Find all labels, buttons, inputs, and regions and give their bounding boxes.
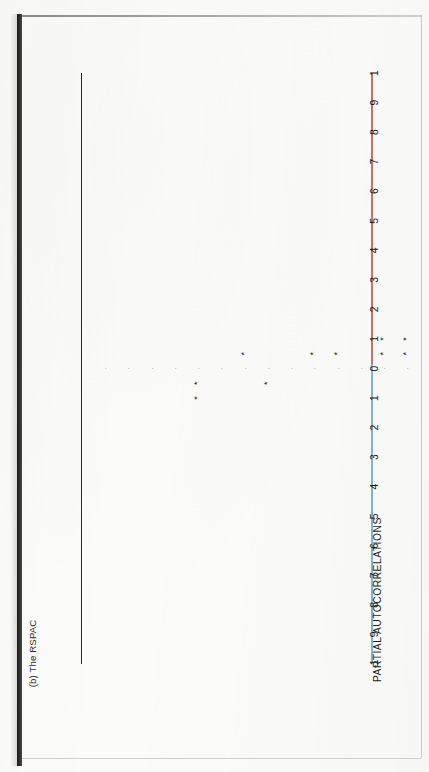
axis-tick-15: 5 <box>369 218 380 224</box>
pacf-marker: * <box>239 352 248 356</box>
figure-rotated-container: PARTIAL AUTOCORRELATIONS -19876543210123… <box>0 0 428 742</box>
pacf-marker: * <box>262 382 271 386</box>
axis-tick-1: 9 <box>369 632 380 638</box>
pacf-figure: PARTIAL AUTOCORRELATIONS -19876543210123… <box>0 0 428 742</box>
page-border-bottom <box>22 758 422 759</box>
axis-tick-14: 4 <box>369 247 380 253</box>
axis-tick-8: 2 <box>369 425 380 431</box>
axis-tick-2: 8 <box>369 602 380 608</box>
pacf-marker: * <box>402 337 411 341</box>
pacf-marker: * <box>402 352 411 356</box>
pacf-marker: * <box>379 337 388 341</box>
zero-tick-mark: . <box>123 368 132 370</box>
pacf-marker: * <box>309 352 318 356</box>
zero-tick-mark: . <box>355 368 364 370</box>
axis-tick-20: 1 <box>369 70 380 76</box>
pacf-marker: * <box>379 352 388 356</box>
axis-tick-17: 7 <box>369 159 380 165</box>
pacf-marker: * <box>332 352 341 356</box>
zero-tick-mark: . <box>286 368 295 370</box>
zero-tick-mark: . <box>402 368 411 370</box>
pacf-marker: * <box>193 396 202 400</box>
zero-tick-mark: . <box>309 368 318 370</box>
axis-tick-3: 7 <box>369 572 380 578</box>
axis-tick-0: -1 <box>369 660 380 669</box>
axis-tick-12: 2 <box>369 307 380 313</box>
zero-tick-mark: . <box>332 368 341 370</box>
zero-tick-mark: . <box>100 368 109 370</box>
axis-tick-16: 6 <box>369 188 380 194</box>
scanned-page: (b) The RSPAC PARTIAL AUTOCORRELATIONS -… <box>0 0 429 772</box>
zero-tick-mark: . <box>379 368 388 370</box>
zero-tick-mark: . <box>239 368 248 370</box>
zero-tick-mark: . <box>216 368 225 370</box>
axis-tick-18: 8 <box>369 129 380 135</box>
axis-tick-19: 9 <box>369 100 380 106</box>
pacf-marker: * <box>193 382 202 386</box>
zero-tick-mark: . <box>193 368 202 370</box>
axis-tick-7: 3 <box>369 454 380 460</box>
axis-tick-4: 6 <box>369 543 380 549</box>
axis-tick-5: 5 <box>369 513 380 519</box>
axis-tick-13: 3 <box>369 277 380 283</box>
axis-tick-9: 1 <box>369 395 380 401</box>
zero-tick-mark: . <box>425 368 429 370</box>
axis-tick-6: 4 <box>369 484 380 490</box>
zero-tick-mark: . <box>146 368 155 370</box>
zero-tick-mark: . <box>169 368 178 370</box>
plot-border-top <box>81 73 82 664</box>
zero-tick-mark: . <box>262 368 271 370</box>
